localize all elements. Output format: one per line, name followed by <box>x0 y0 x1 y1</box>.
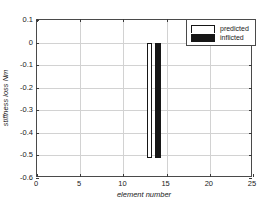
y-axis-tick <box>36 88 39 89</box>
y-axis-title: stiffness loss Nm <box>1 70 10 127</box>
legend-entry-inflicted: inflicted <box>191 33 244 42</box>
x-axis-tick-label: 0 <box>34 179 38 188</box>
chart-legend[interactable]: predicted inflicted <box>186 19 256 46</box>
gridline-horizontal <box>37 110 251 111</box>
x-axis-tick-label: 25 <box>248 179 256 188</box>
y-axis-tick-label: 0 <box>29 37 33 46</box>
x-axis-tick <box>37 174 38 177</box>
legend-swatch-predicted <box>191 25 215 33</box>
gridline-horizontal <box>37 88 251 89</box>
x-axis-tick <box>167 174 168 177</box>
gridline-horizontal <box>37 65 251 66</box>
y-axis-tick <box>36 65 39 66</box>
y-axis-tick-label: 0.1 <box>23 15 33 24</box>
y-axis-tick <box>249 65 252 66</box>
gridline-horizontal <box>37 155 251 156</box>
legend-swatch-inflicted <box>191 34 215 42</box>
y-axis-tick-label: -0.3 <box>20 105 33 114</box>
x-axis-tick <box>123 174 124 177</box>
x-axis-tick-label: 5 <box>77 179 81 188</box>
y-axis-tick <box>249 110 252 111</box>
y-axis-tick <box>36 20 39 21</box>
gridline-horizontal <box>37 133 251 134</box>
x-axis-tick <box>123 19 124 22</box>
y-axis-tick-label: -0.4 <box>20 127 33 136</box>
y-axis-tick-label: -0.5 <box>20 150 33 159</box>
x-axis-tick <box>253 174 254 177</box>
figure-canvas: 0510152025 0.10-0.1-0.2-0.3-0.4-0.5-0.6 … <box>0 0 265 216</box>
x-axis-tick-label: 20 <box>205 179 213 188</box>
y-axis-tick <box>36 43 39 44</box>
legend-entry-predicted: predicted <box>191 24 249 33</box>
y-axis-tick-label: -0.2 <box>20 82 33 91</box>
y-axis-tick <box>36 155 39 156</box>
bar-inflicted <box>155 43 160 158</box>
x-axis-tick <box>80 19 81 22</box>
y-axis-tick-label: -0.1 <box>20 60 33 69</box>
y-axis-tick <box>36 133 39 134</box>
x-axis-tick-label: 10 <box>118 179 126 188</box>
x-axis-tick <box>167 19 168 22</box>
bar-predicted <box>147 43 152 158</box>
x-axis-title: element number <box>117 190 171 199</box>
y-axis-tick-label: -0.6 <box>20 173 33 182</box>
y-axis-tick <box>36 110 39 111</box>
x-axis-tick <box>80 174 81 177</box>
y-axis-tick <box>249 88 252 89</box>
x-axis-tick <box>210 174 211 177</box>
legend-label-inflicted: inflicted <box>220 34 244 42</box>
y-axis-tick <box>249 133 252 134</box>
y-axis-tick <box>249 155 252 156</box>
legend-label-predicted: predicted <box>220 25 249 33</box>
x-axis-tick-label: 15 <box>161 179 169 188</box>
